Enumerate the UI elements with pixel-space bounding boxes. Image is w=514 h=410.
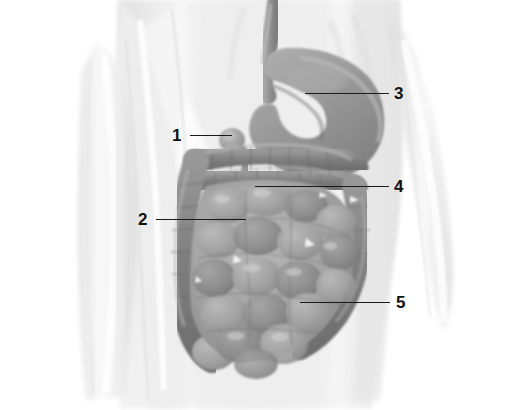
callout-4-label: 4: [394, 178, 403, 195]
callout-1-label: 1: [172, 127, 181, 144]
anatomy-illustration: [0, 0, 514, 410]
callout-3-leader-line: [305, 93, 389, 94]
anatomy-figure: 1 2 3 4 5: [0, 0, 514, 410]
callout-2-leader-line: [156, 219, 246, 220]
callout-2-label: 2: [138, 211, 147, 228]
callout-1-leader-line: [190, 135, 232, 136]
callout-3-label: 3: [394, 85, 403, 102]
callout-4-leader-line: [255, 186, 389, 187]
callout-5-label: 5: [396, 294, 405, 311]
callout-5-leader-line: [300, 302, 390, 303]
